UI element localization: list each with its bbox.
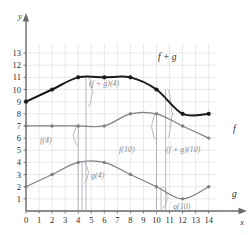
curve-label-g: g [232, 189, 237, 199]
x-tick-7: 7 [115, 215, 119, 225]
point-f-x2 [50, 124, 53, 127]
y-tick-11: 11 [13, 72, 21, 82]
point-g-x2 [50, 173, 53, 176]
x-tick-12: 12 [178, 215, 187, 225]
y-tick-7: 7 [17, 121, 21, 131]
x-tick-3: 3 [63, 215, 67, 225]
grid-lines [26, 43, 217, 211]
point-f-x10 [155, 112, 158, 115]
point-g-x6 [103, 161, 106, 164]
point-g-x14 [207, 185, 210, 188]
annotation-g-of-10: g(10) [173, 202, 191, 211]
point-g-x0 [24, 185, 27, 188]
y-tick-8: 8 [17, 109, 21, 119]
point-f-x8 [129, 112, 132, 115]
x-axis-arrow-icon [239, 208, 248, 214]
y-tick-2: 2 [17, 182, 21, 192]
y-tick-12: 12 [13, 60, 22, 70]
point-f-x14 [207, 136, 210, 139]
point-f-plus-g-x10 [154, 87, 158, 91]
x-tick-1: 1 [37, 215, 41, 225]
y-tick-13: 13 [13, 48, 22, 58]
point-g-x8 [129, 173, 132, 176]
function-sum-graph: y x 01234567891011121314 123456789101112… [0, 0, 252, 235]
point-g-x10 [155, 185, 158, 188]
curve-label-f: f [233, 124, 237, 134]
x-tick-2: 2 [50, 215, 54, 225]
y-axis-label: y [17, 11, 22, 21]
annotation-f-plus-g-of-10: (f + g)(10) [166, 145, 201, 154]
x-tick-labels: 01234567891011121314 [24, 211, 214, 225]
curve-label-f-plus-g: f + g [158, 52, 177, 62]
annotation-f-of-4: f(4) [40, 136, 52, 145]
point-f-x6 [103, 124, 106, 127]
point-f-x4 [77, 124, 80, 127]
x-tick-5: 5 [89, 215, 93, 225]
point-f-x0 [24, 124, 27, 127]
point-g-x4 [77, 161, 80, 164]
x-axis-label: x [239, 217, 244, 227]
point-f-plus-g-x14 [207, 112, 211, 116]
y-tick-4: 4 [17, 157, 22, 167]
y-tick-3: 3 [17, 170, 21, 180]
point-g-x12 [181, 197, 184, 200]
annotation-f-plus-g-of-4: (f + g)(4) [89, 79, 120, 88]
x-tick-6: 6 [102, 215, 106, 225]
point-f-plus-g-x2 [50, 87, 54, 91]
x-tick-9: 9 [141, 215, 145, 225]
annotation-f-of-10: f(10) [119, 145, 135, 154]
x-tick-14: 14 [204, 215, 213, 225]
y-tick-labels: 12345678910111213 [13, 48, 27, 204]
x-tick-4: 4 [76, 215, 81, 225]
point-f-plus-g-x0 [24, 100, 28, 104]
point-f-plus-g-x12 [181, 112, 185, 116]
point-f-plus-g-x4 [76, 75, 80, 79]
y-tick-6: 6 [17, 133, 21, 143]
x-tick-11: 11 [165, 215, 173, 225]
x-tick-13: 13 [191, 215, 200, 225]
x-tick-8: 8 [128, 215, 132, 225]
annotation-g-of-4: g(4) [91, 171, 105, 180]
y-axis-arrow-icon [23, 13, 29, 22]
y-tick-1: 1 [17, 194, 21, 204]
point-f-plus-g-x8 [128, 75, 132, 79]
y-tick-10: 10 [13, 85, 22, 95]
point-f-x12 [181, 124, 184, 127]
x-tick-10: 10 [152, 215, 161, 225]
y-tick-9: 9 [17, 97, 21, 107]
x-tick-0: 0 [24, 215, 28, 225]
y-tick-5: 5 [17, 145, 21, 155]
